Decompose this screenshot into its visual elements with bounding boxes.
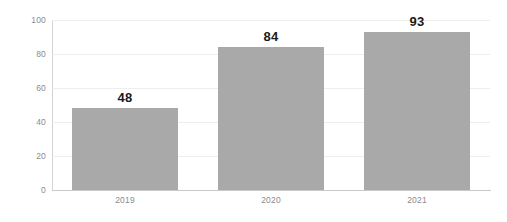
x-axis-line (52, 190, 491, 191)
x-tick-label-2019: 2019 (72, 196, 178, 205)
y-tick-label-80: 80 (6, 50, 46, 59)
y-tick-label-40: 40 (6, 118, 46, 127)
y-tick-label-100: 100 (6, 16, 46, 25)
y-tick-label-0: 0 (6, 186, 46, 195)
x-tick-label-2021: 2021 (364, 196, 470, 205)
bar-value-2020: 84 (218, 30, 324, 43)
y-tick-label-60: 60 (6, 84, 46, 93)
bar-value-2019: 48 (72, 91, 178, 104)
bar-2019[interactable] (72, 108, 178, 190)
bar-2021[interactable] (364, 32, 470, 190)
bar-2020[interactable] (218, 47, 324, 190)
x-tick-label-2020: 2020 (218, 196, 324, 205)
y-tick-label-20: 20 (6, 152, 46, 161)
bar-chart: 100 80 60 40 20 0 48 84 93 2019 2020 202… (0, 0, 507, 222)
bar-value-2021: 93 (364, 15, 470, 28)
plot-area (52, 20, 490, 190)
y-axis-tick-labels: 100 80 60 40 20 0 (0, 20, 46, 190)
